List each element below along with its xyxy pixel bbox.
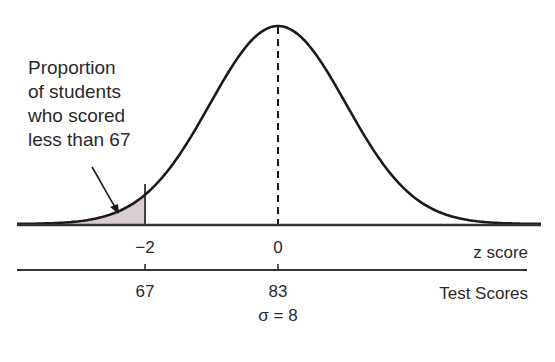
- annotation-line: who scored: [28, 104, 130, 128]
- annotation-line: less than 67: [28, 128, 130, 152]
- score-tick-label-67: 67: [136, 281, 155, 302]
- annotation-arrow: [92, 167, 117, 210]
- annotation-line: Proportion: [28, 56, 130, 80]
- z-tick-label-0: 0: [273, 237, 282, 258]
- test-scores-axis-label: Test Scores: [439, 283, 528, 304]
- z-tick-label-neg2: −2: [135, 237, 154, 258]
- annotation-line: of students: [28, 80, 130, 104]
- sigma-label: σ = 8: [258, 305, 297, 326]
- z-axis-label: z score: [473, 242, 528, 263]
- score-tick-label-83: 83: [269, 281, 288, 302]
- annotation-text: Proportion of students who scored less t…: [28, 56, 130, 152]
